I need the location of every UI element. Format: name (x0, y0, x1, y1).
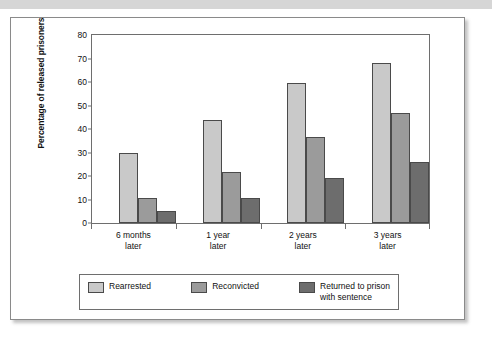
x-axis-label: 6 monthslater (91, 230, 176, 252)
bar[interactable] (410, 162, 429, 223)
bar[interactable] (119, 153, 138, 224)
y-tick-label: 50 (78, 101, 87, 111)
bar[interactable] (306, 137, 325, 223)
legend-swatch (88, 282, 104, 293)
x-tick-mark (91, 224, 92, 229)
x-tick-mark (345, 224, 346, 229)
legend-swatch (299, 282, 315, 293)
y-tick-label: 80 (78, 30, 87, 40)
y-tick-mark (88, 199, 92, 200)
x-tick-mark (261, 224, 262, 229)
bar[interactable] (222, 172, 241, 223)
bar[interactable] (372, 63, 391, 223)
bar[interactable] (138, 198, 157, 223)
y-tick-mark (88, 152, 92, 153)
x-axis-ticks (91, 224, 430, 229)
y-axis-label: Percentage of released prisoners (36, 0, 46, 173)
plot-area: 01020304050607080 (91, 34, 430, 224)
y-tick-mark (88, 176, 92, 177)
bar-group (261, 35, 345, 223)
bar[interactable] (157, 211, 176, 223)
y-tick-mark (88, 82, 92, 83)
y-tick-label: 60 (78, 77, 87, 87)
y-tick-label: 40 (78, 124, 87, 134)
legend-item[interactable]: Reconvicted (191, 281, 259, 293)
legend-label: Rearrested (109, 281, 151, 292)
y-tick-label: 20 (78, 171, 87, 181)
bar[interactable] (325, 178, 344, 223)
y-tick-mark (88, 129, 92, 130)
x-tick-mark (429, 224, 430, 229)
top-gray-band (0, 0, 492, 9)
legend-label: Returned to prison with sentence (320, 281, 390, 302)
bar[interactable] (203, 120, 222, 223)
x-axis-label: 2 yearslater (261, 230, 346, 252)
x-axis-label: 1 yearlater (176, 230, 261, 252)
y-tick-label: 0 (82, 218, 87, 228)
bars-layer (92, 35, 429, 223)
bar-group (176, 35, 260, 223)
bar-group (92, 35, 176, 223)
x-axis-labels: 6 monthslater1 yearlater2 yearslater3 ye… (91, 230, 430, 252)
bar[interactable] (391, 113, 410, 223)
legend-item[interactable]: Rearrested (88, 281, 151, 293)
chart-legend: RearrestedReconvictedReturned to prison … (79, 274, 399, 310)
y-tick-label: 70 (78, 54, 87, 64)
legend-label: Reconvicted (212, 281, 259, 292)
y-tick-mark (88, 58, 92, 59)
x-tick-mark (176, 224, 177, 229)
y-tick-label: 10 (78, 195, 87, 205)
x-axis-label: 3 yearslater (345, 230, 430, 252)
figure-frame: Percentage of released prisoners 0102030… (10, 17, 465, 320)
bar-chart: Percentage of released prisoners 0102030… (11, 18, 464, 319)
y-tick-label: 30 (78, 148, 87, 158)
legend-item[interactable]: Returned to prison with sentence (299, 281, 390, 302)
legend-swatch (191, 282, 207, 293)
y-tick-mark (88, 105, 92, 106)
bar[interactable] (287, 83, 306, 223)
bar[interactable] (241, 198, 260, 223)
bar-group (345, 35, 429, 223)
